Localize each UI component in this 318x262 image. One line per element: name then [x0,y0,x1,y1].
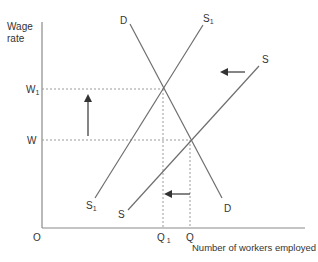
supply-top-label: S [262,54,269,65]
supply1-curve [95,25,203,198]
y-axis-label-rate: rate [7,33,25,44]
supply1-bottom-label: S1 [86,200,97,212]
supply-bottom-label: S [118,209,125,220]
supply1-top-label: S1 [203,13,214,25]
origin-label: O [33,232,41,243]
supply-curve [128,66,259,210]
supply-shift-diagram: Wage rate Number of workers employed O W… [0,0,318,262]
w-label: W [27,135,37,146]
x-axis-label: Number of workers employed [192,242,316,253]
demand-top-label: D [120,15,127,26]
demand-curve [130,24,222,198]
y-axis-label-wage: Wage [7,21,33,32]
w1-label: W1 [26,84,39,96]
q-label: Q [186,232,194,243]
demand-bottom-label: D [224,203,231,214]
q1-label: Q1 [157,232,171,244]
